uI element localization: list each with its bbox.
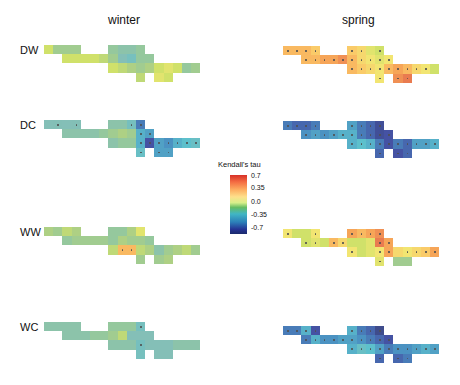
row-label-wc: WC xyxy=(20,321,38,333)
grid-cell xyxy=(366,121,375,130)
grid-cell xyxy=(53,45,62,54)
grid-cell xyxy=(99,236,108,245)
significance-dot xyxy=(397,143,399,145)
grid-cell xyxy=(366,130,375,139)
significance-dot xyxy=(361,125,363,127)
significance-dot xyxy=(140,326,142,328)
grid-cell xyxy=(375,139,384,148)
grid-cell xyxy=(99,54,108,63)
grid-cell xyxy=(72,236,81,245)
significance-dot xyxy=(379,242,381,244)
grid-cell xyxy=(154,63,163,72)
grid-cell xyxy=(375,354,384,363)
map-dc-winter xyxy=(44,120,204,157)
legend-tick-neg0.7: -0.7 xyxy=(251,224,263,231)
significance-dot xyxy=(296,50,298,52)
significance-dot xyxy=(397,348,399,350)
grid-cell xyxy=(375,257,384,266)
legend-tick-neg0.35: -0.35 xyxy=(251,211,267,218)
grid-cell xyxy=(412,64,421,73)
grid-cell xyxy=(118,129,127,138)
significance-dot xyxy=(379,125,381,127)
significance-dot xyxy=(397,78,399,80)
significance-dot xyxy=(122,249,124,251)
significance-dot xyxy=(434,143,436,145)
grid-cell xyxy=(191,245,200,254)
grid-cell xyxy=(366,335,375,344)
grid-cell xyxy=(136,129,145,138)
significance-dot xyxy=(379,261,381,263)
significance-dot xyxy=(305,330,307,332)
significance-dot xyxy=(315,242,317,244)
significance-dot xyxy=(351,339,353,341)
significance-dot xyxy=(351,233,353,235)
grid-cell xyxy=(108,120,117,129)
grid-cell xyxy=(164,138,173,147)
grid-cell xyxy=(347,229,356,238)
grid-cell xyxy=(366,55,375,64)
grid-cell xyxy=(384,139,393,148)
significance-dot xyxy=(351,143,353,145)
significance-dot xyxy=(407,68,409,70)
grid-cell xyxy=(173,245,182,254)
grid-cell xyxy=(164,350,173,359)
grid-cell xyxy=(283,121,292,130)
significance-dot xyxy=(351,330,353,332)
significance-dot xyxy=(315,125,317,127)
grid-cell xyxy=(430,344,439,353)
grid-cell xyxy=(127,227,136,236)
grid-cell xyxy=(347,139,356,148)
grid-cell xyxy=(154,73,163,82)
grid-cell xyxy=(320,55,329,64)
grid-cell xyxy=(301,130,310,139)
significance-dot xyxy=(379,68,381,70)
significance-dot xyxy=(361,339,363,341)
grid-cell xyxy=(127,54,136,63)
significance-dot xyxy=(324,134,326,136)
grid-cell xyxy=(164,73,173,82)
grid-cell xyxy=(384,247,393,256)
significance-dot xyxy=(315,50,317,52)
grid-cell xyxy=(292,121,301,130)
grid-cell xyxy=(338,335,347,344)
grid-cell xyxy=(136,331,145,340)
grid-cell xyxy=(384,344,393,353)
grid-cell xyxy=(403,139,412,148)
significance-dot xyxy=(315,339,317,341)
grid-cell xyxy=(136,340,145,349)
grid-cell xyxy=(154,148,163,157)
grid-cell xyxy=(127,236,136,245)
grid-cell xyxy=(403,74,412,83)
grid-cell xyxy=(81,129,90,138)
grid-cell xyxy=(62,45,71,54)
significance-dot xyxy=(361,50,363,52)
grid-cell xyxy=(127,129,136,138)
significance-dot xyxy=(379,358,381,360)
grid-cell xyxy=(118,54,127,63)
grid-cell xyxy=(108,245,117,254)
significance-dot xyxy=(351,68,353,70)
significance-dot xyxy=(305,50,307,52)
significance-dot xyxy=(305,339,307,341)
grid-cell xyxy=(154,350,163,359)
grid-cell xyxy=(329,238,338,247)
grid-cell xyxy=(421,139,430,148)
grid-cell xyxy=(145,236,154,245)
grid-cell xyxy=(118,331,127,340)
significance-dot xyxy=(407,358,409,360)
grid-cell xyxy=(311,46,320,55)
significance-dot xyxy=(168,152,170,154)
grid-cell xyxy=(164,148,173,157)
significance-dot xyxy=(397,68,399,70)
significance-dot xyxy=(315,330,317,332)
grid-cell xyxy=(366,46,375,55)
grid-cell xyxy=(375,74,384,83)
significance-dot xyxy=(361,330,363,332)
significance-dot xyxy=(361,348,363,350)
significance-dot xyxy=(177,142,179,144)
grid-cell xyxy=(164,63,173,72)
grid-cell xyxy=(357,238,366,247)
significance-dot xyxy=(361,233,363,235)
grid-cell xyxy=(62,331,71,340)
grid-cell xyxy=(44,227,53,236)
